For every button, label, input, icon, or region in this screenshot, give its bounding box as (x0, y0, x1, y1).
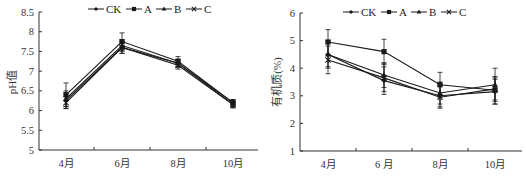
y-tick-label: 5 (290, 35, 295, 46)
legend-item-a: A (381, 6, 407, 18)
y-tick-label: 5 (29, 145, 34, 156)
y-tick-label: 7 (29, 66, 34, 77)
series-line-ck (328, 54, 495, 95)
organic-matter-chart-series (325, 30, 498, 109)
legend-label: B (429, 6, 436, 18)
series-line-c (66, 47, 233, 104)
series-line-c (328, 60, 495, 97)
legend-label: C (204, 3, 211, 15)
legend-label: A (399, 6, 407, 18)
y-tick-label: 8.5 (21, 7, 34, 18)
x-tick-label: 10月 (223, 158, 244, 169)
y-tick-label: 6 (290, 8, 295, 19)
legend-label: CK (361, 6, 376, 18)
y-tick-label: 1 (290, 146, 295, 157)
x-tick-label: 8月 (432, 159, 447, 170)
organic-matter-chart-legend: CKABC (343, 6, 466, 18)
y-tick-label: 8 (29, 26, 34, 37)
x-tick-label: 6月 (114, 158, 129, 169)
series-line-a (66, 42, 233, 103)
legend-item-ck: CK (343, 6, 376, 18)
x-tick-label: 4月 (320, 159, 335, 170)
legend-label: CK (106, 3, 121, 15)
legend-label: A (144, 3, 152, 15)
x-tick-label: 8月 (170, 158, 185, 169)
ph-chart-series (63, 33, 236, 109)
y-tick-label: 7.5 (21, 46, 34, 57)
x-tick-label: 4月 (58, 158, 73, 169)
y-tick-label: 6.5 (21, 85, 34, 96)
charts-figure: 55.566.577.588.5 4月6月8月10月 pH值 CKABC 123… (0, 0, 526, 183)
ph-chart-axes (39, 12, 258, 150)
organic-matter-chart: 123456 4月6 月8月10月 有机质(%) CKABC (270, 6, 522, 170)
y-tick-label: 2 (290, 118, 295, 129)
y-tick-label: 6 (29, 105, 34, 116)
y-tick-label: 5.5 (21, 125, 34, 136)
organic-matter-chart-y-ticks: 123456 (290, 8, 303, 157)
y-tick-label: 3 (290, 90, 295, 101)
organic-matter-chart-axes (300, 13, 522, 151)
y-tick-label: 4 (290, 63, 296, 74)
organic-matter-chart-y-axis-title: 有机质(%) (270, 57, 284, 107)
legend-item-b: B (411, 6, 436, 18)
x-tick-label: 6 月 (375, 159, 393, 170)
legend-item-c: C (441, 6, 466, 18)
x-tick-label: 10月 (485, 159, 506, 170)
series-line-b (66, 46, 233, 103)
legend-item-ck: CK (88, 3, 121, 15)
ph-chart-legend: CKABC (88, 3, 211, 15)
ph-chart-y-axis-title: pH值 (6, 70, 18, 94)
legend-label: B (174, 3, 181, 15)
legend-item-c: C (186, 3, 211, 15)
legend-label: C (459, 6, 466, 18)
legend-item-b: B (156, 3, 181, 15)
ph-chart: 55.566.577.588.5 4月6月8月10月 pH值 CKABC (6, 3, 258, 169)
legend-item-a: A (126, 3, 152, 15)
